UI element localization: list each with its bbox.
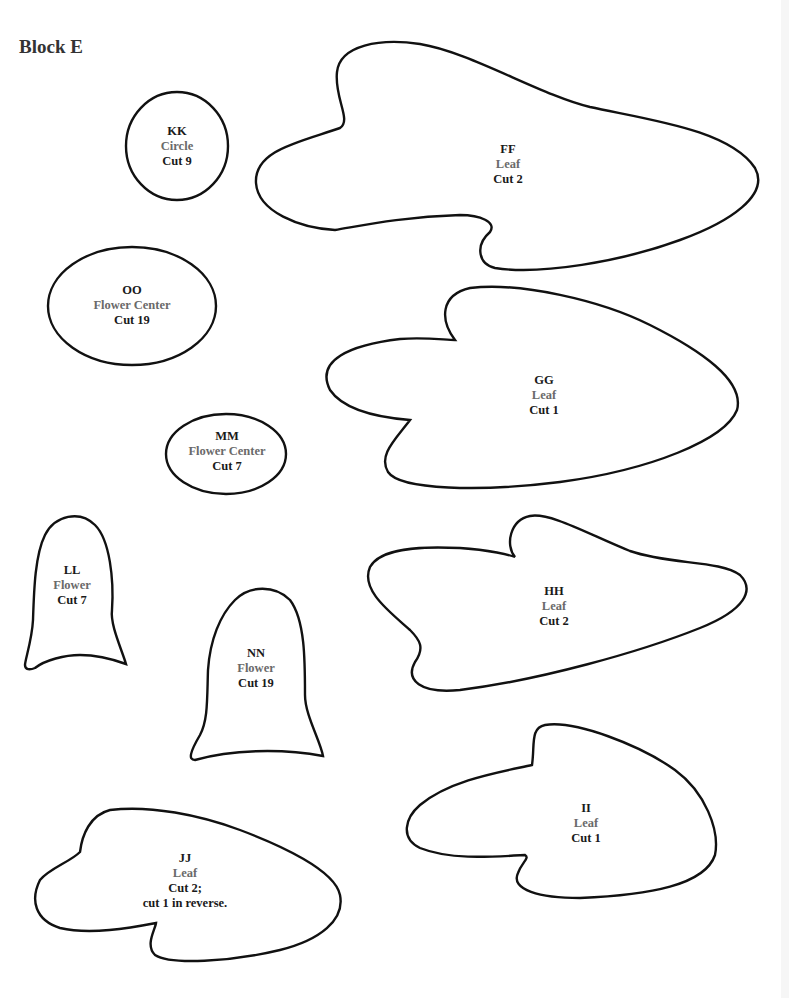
piece-mm-label: MM Flower Center Cut 7 [188, 429, 265, 474]
piece-code: FF [493, 142, 523, 157]
piece-kind: Leaf [571, 816, 601, 831]
piece-code: HH [539, 584, 569, 599]
piece-code: OO [93, 283, 170, 298]
piece-cut: Cut 1 [571, 831, 601, 846]
piece-nn-label: NN Flower Cut 19 [237, 646, 274, 691]
piece-cut: Cut 19 [93, 313, 170, 328]
piece-gg-label: GG Leaf Cut 1 [529, 373, 559, 418]
piece-kind: Leaf [143, 866, 227, 881]
piece-code: II [571, 801, 601, 816]
piece-kind: Flower [53, 578, 90, 593]
piece-kind: Flower Center [188, 444, 265, 459]
piece-code: MM [188, 429, 265, 444]
piece-code: KK [161, 124, 193, 139]
piece-hh-label: HH Leaf Cut 2 [539, 584, 569, 629]
shape-ii-leaf [407, 724, 716, 898]
pattern-shapes [0, 0, 789, 998]
piece-code: LL [53, 563, 90, 578]
piece-kind: Leaf [493, 157, 523, 172]
piece-ll-label: LL Flower Cut 7 [53, 563, 90, 608]
piece-jj-label: JJ Leaf Cut 2; cut 1 in reverse. [143, 851, 227, 911]
piece-kind: Leaf [529, 388, 559, 403]
piece-ii-label: II Leaf Cut 1 [571, 801, 601, 846]
piece-kind: Flower [237, 661, 274, 676]
piece-cut: Cut 2 [493, 172, 523, 187]
piece-code: JJ [143, 851, 227, 866]
piece-kind: Circle [161, 139, 193, 154]
piece-code: NN [237, 646, 274, 661]
piece-cut: Cut 2 [539, 614, 569, 629]
piece-cut: Cut 19 [237, 676, 274, 691]
piece-cut: Cut 7 [188, 459, 265, 474]
piece-ff-label: FF Leaf Cut 2 [493, 142, 523, 187]
piece-kind: Leaf [539, 599, 569, 614]
piece-cut: Cut 7 [53, 593, 90, 608]
piece-cut: Cut 2; [143, 881, 227, 896]
piece-oo-label: OO Flower Center Cut 19 [93, 283, 170, 328]
piece-code: GG [529, 373, 559, 388]
piece-cut: Cut 9 [161, 154, 193, 169]
piece-kk-label: KK Circle Cut 9 [161, 124, 193, 169]
piece-note: cut 1 in reverse. [143, 896, 227, 911]
piece-kind: Flower Center [93, 298, 170, 313]
piece-cut: Cut 1 [529, 403, 559, 418]
